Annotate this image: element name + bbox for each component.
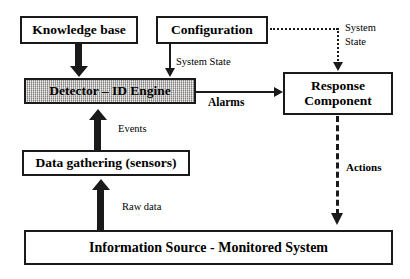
edge-label-actions: Actions [346,161,381,174]
node-data-gathering-sensors[interactable]: Data gathering (sensors) [22,150,190,176]
dashed-arrowhead-down-icon [331,213,343,225]
thin-arrow-shaft-icon [196,91,275,93]
node-information-source-monitored-system[interactable]: Information Source - Monitored System [24,230,393,265]
dotted-arrowhead-down-icon [333,62,343,71]
node-configuration-label: Configuration [171,23,253,38]
edge-label-raw-data: Raw data [122,201,161,213]
edge-label-system-state-response-line1: System [345,22,376,34]
dotted-line-vertical-icon [337,28,339,64]
edge-label-alarms: Alarms [208,96,244,109]
node-knowledge-base-label: Knowledge base [32,23,125,38]
node-knowledge-base[interactable]: Knowledge base [20,16,138,44]
edge-label-events: Events [118,123,147,135]
thin-arrowhead-right-icon [274,87,283,97]
node-detector-id-engine[interactable]: Detector – ID Engine [24,78,196,104]
node-data-gathering-sensors-label: Data gathering (sensors) [36,156,177,171]
thick-arrow-shaft-icon [97,190,104,230]
thick-arrow-shaft-icon [94,120,101,150]
thin-arrowhead-down-icon [165,68,175,77]
thick-arrow-shaft-icon [75,44,82,67]
thin-arrow-shaft-icon [169,44,171,69]
dotted-line-horizontal-icon [270,28,338,30]
node-configuration[interactable]: Configuration [156,16,268,44]
diagram-canvas: Knowledge base Configuration Detector – … [0,0,410,279]
node-response-component-label-line1: Response [311,79,365,94]
thick-arrowhead-up-icon [89,109,107,120]
dashed-line-vertical-icon [336,116,339,215]
edge-label-system-state-detector: System State [176,56,231,68]
thick-arrowhead-down-icon [70,66,88,77]
node-information-source-monitored-system-label: Information Source - Monitored System [89,240,328,255]
thick-arrowhead-up-icon [92,179,110,190]
node-detector-id-engine-label: Detector – ID Engine [49,84,171,99]
node-response-component-label-line2: Component [304,94,372,109]
edge-label-system-state-response-line2: State [345,36,366,48]
node-response-component[interactable]: Response Component [283,72,393,115]
